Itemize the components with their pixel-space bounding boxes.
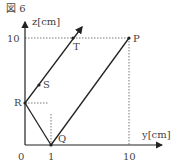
z-tick-10: 10 — [7, 33, 20, 44]
y-axis-label: y[cm] — [141, 129, 171, 140]
z-axis-label: z[cm] — [32, 16, 60, 27]
figure-title: 図 6 — [6, 3, 26, 14]
point-r-label: R — [14, 97, 22, 108]
point-t-label: T — [73, 41, 80, 52]
diagram: 図 6 z[cm] y[cm] 0 1 10 10 P Q R S T — [0, 0, 180, 166]
origin-label: 0 — [18, 151, 24, 162]
point-p-label: P — [133, 33, 140, 44]
point-q-label: Q — [58, 133, 66, 144]
points — [23, 36, 130, 146]
y-tick-1: 1 — [48, 151, 54, 162]
y-tick-10: 10 — [123, 151, 136, 162]
point-s-label: S — [43, 79, 50, 90]
